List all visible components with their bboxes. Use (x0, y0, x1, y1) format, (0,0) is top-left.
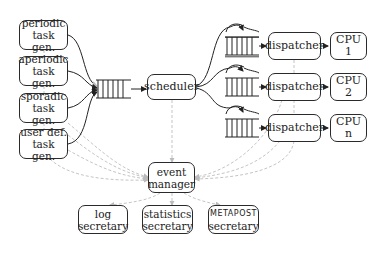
event-manager-node: event manager (148, 162, 195, 193)
queue-cpu1 (225, 37, 259, 55)
dispatcher-node-n: dispatcher (268, 114, 321, 142)
dispatcher-node-2: dispatcher (268, 73, 321, 101)
cpu-node-2: CPU 2 (330, 73, 367, 101)
label-line2: task gen. (20, 138, 67, 162)
label-line1: METAPOST (210, 208, 257, 220)
label-line1: log (95, 208, 111, 220)
aperiodic-task-generator: aperiodic task gen. (19, 56, 68, 86)
label-line1: user def. (20, 126, 67, 138)
cpu-label: CPU 1 (331, 34, 366, 58)
label-line2: manager (148, 178, 195, 190)
cpu-node-1: CPU 1 (330, 32, 367, 60)
label-line1: periodic (22, 17, 66, 29)
cpu-label: CPU 2 (331, 75, 366, 99)
scheduler-label: scheduler (144, 81, 199, 93)
metapost-secretary-node: METAPOST secretary (208, 205, 259, 234)
queue-cpu2 (225, 78, 259, 96)
queue-cpun (225, 119, 259, 137)
dispatcher-label: dispatcher (265, 40, 324, 52)
label-line2: task gen. (20, 29, 67, 53)
cpu-node-n: CPU n (330, 114, 367, 142)
periodic-task-generator: periodic task gen. (19, 20, 68, 50)
label-line1: event (157, 166, 186, 178)
ready-queue (96, 80, 131, 98)
dispatcher-node-1: dispatcher (268, 32, 321, 60)
log-secretary-node: log secretary (78, 205, 128, 234)
sporadic-task-generator: sporadic task gen. (19, 93, 68, 123)
label-line1: statistics (144, 208, 192, 220)
label-line1: sporadic (21, 90, 67, 102)
label-line2: task gen. (20, 65, 67, 89)
cpu-label: CPU n (331, 116, 366, 140)
label-line2: secretary (208, 220, 258, 232)
label-line2: secretary (78, 220, 128, 232)
label-line2: task gen. (20, 102, 67, 126)
dispatcher-label: dispatcher (265, 122, 324, 134)
scheduler-node: scheduler (147, 74, 196, 100)
label-line1: aperiodic (19, 53, 69, 65)
dispatcher-label: dispatcher (265, 81, 324, 93)
user-defined-task-generator: user def. task gen. (19, 129, 68, 159)
statistics-secretary-node: statistics secretary (142, 205, 193, 234)
label-line2: secretary (142, 220, 192, 232)
